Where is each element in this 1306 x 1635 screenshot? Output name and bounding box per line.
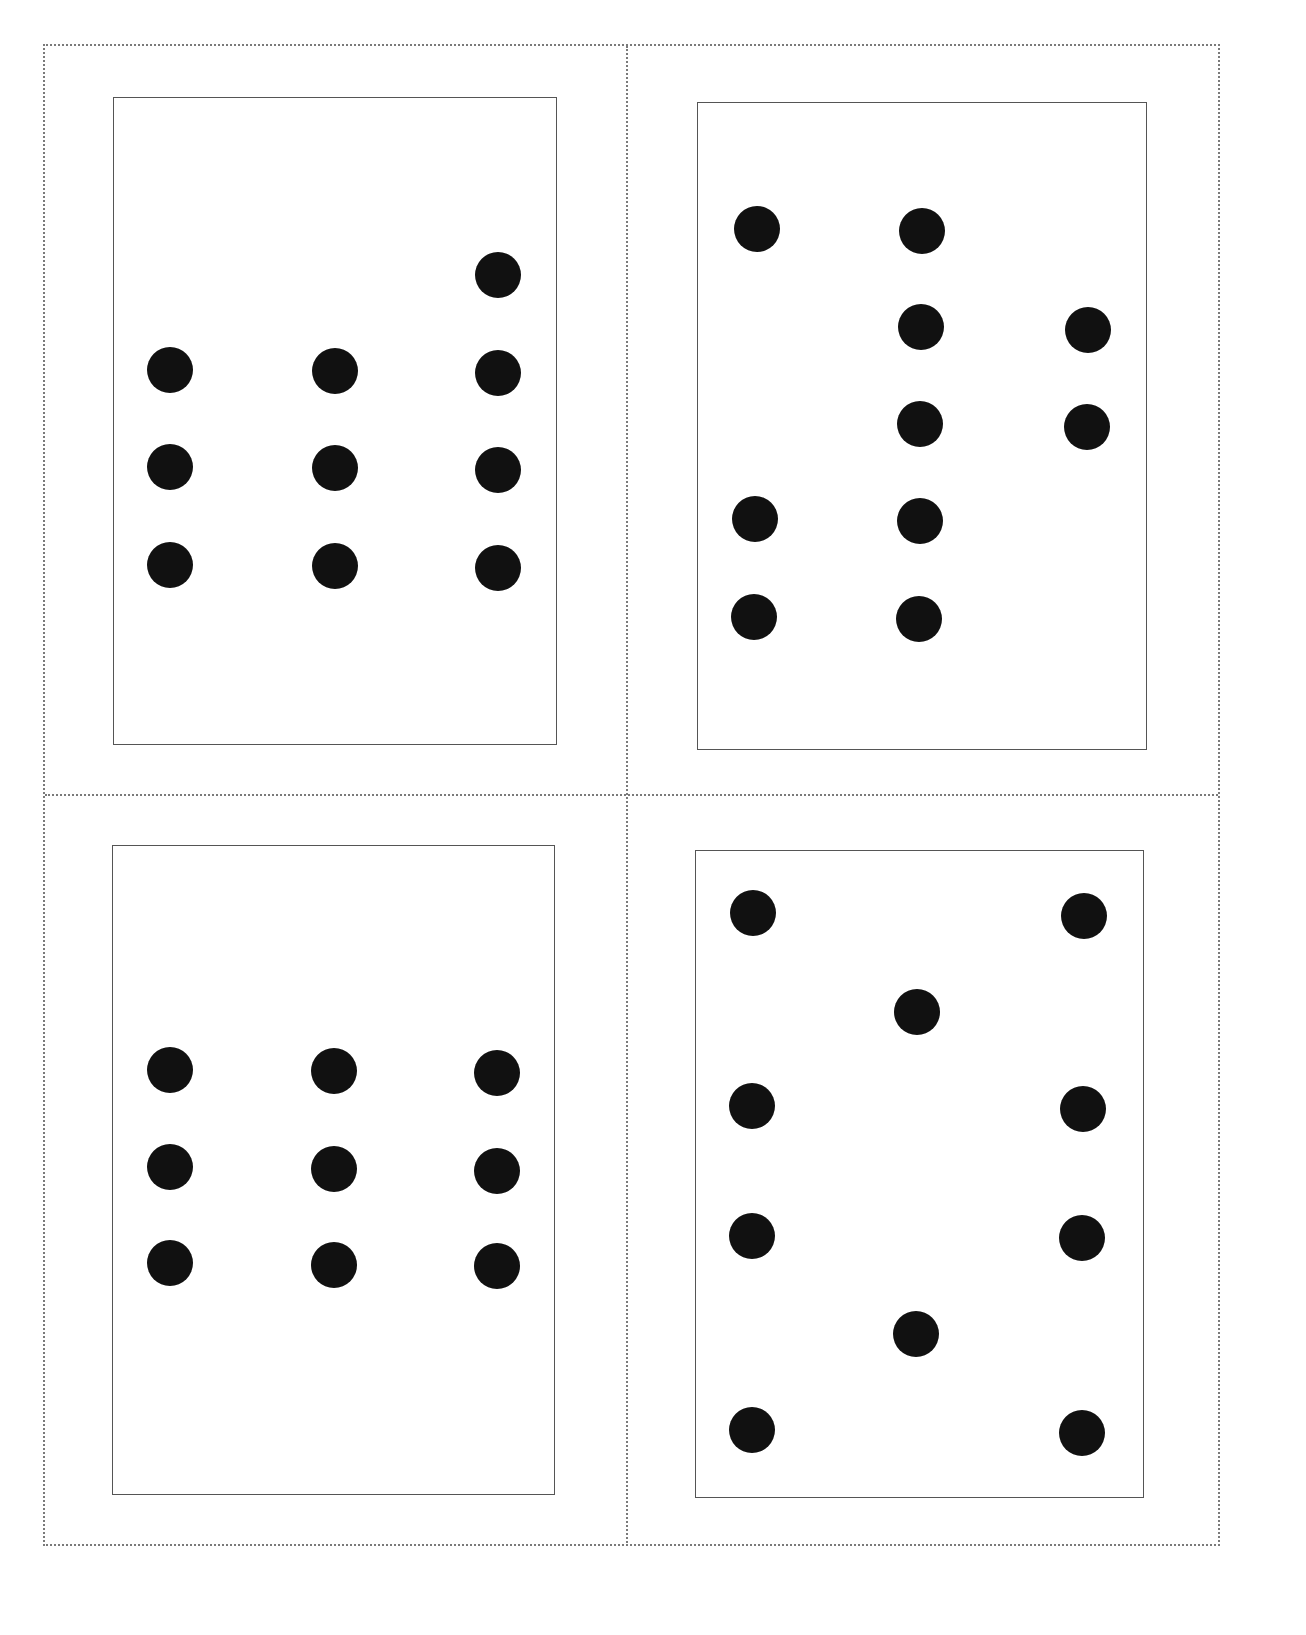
dot-pip-icon <box>475 350 521 396</box>
vertical-cut-line <box>626 46 628 1546</box>
dot-pip-icon <box>893 1311 939 1357</box>
dot-pip-icon <box>474 1050 520 1096</box>
dot-pip-icon <box>475 252 521 298</box>
dot-pip-icon <box>1060 1086 1106 1132</box>
dot-pip-icon <box>729 1407 775 1453</box>
dot-pip-icon <box>729 1213 775 1259</box>
dot-pip-icon <box>1061 893 1107 939</box>
dot-pip-icon <box>898 304 944 350</box>
dot-pip-icon <box>899 208 945 254</box>
dot-pip-icon <box>312 543 358 589</box>
dot-pip-icon <box>732 496 778 542</box>
dot-pip-icon <box>731 594 777 640</box>
dot-pip-icon <box>475 447 521 493</box>
dot-pip-icon <box>897 401 943 447</box>
dot-pip-icon <box>147 1047 193 1093</box>
dot-pip-icon <box>147 1240 193 1286</box>
dot-pip-icon <box>311 1146 357 1192</box>
card-top-left <box>113 97 557 745</box>
dot-pip-icon <box>1059 1410 1105 1456</box>
dot-pip-icon <box>1064 404 1110 450</box>
dot-pip-icon <box>147 444 193 490</box>
horizontal-cut-line <box>45 794 1218 796</box>
card-bottom-right <box>695 850 1144 1498</box>
dot-pip-icon <box>311 1048 357 1094</box>
dot-pip-icon <box>1065 307 1111 353</box>
dot-pip-icon <box>897 498 943 544</box>
dot-pip-icon <box>475 545 521 591</box>
dot-pip-icon <box>729 1083 775 1129</box>
dot-pip-icon <box>311 1242 357 1288</box>
dot-pip-icon <box>312 348 358 394</box>
dot-pip-icon <box>474 1148 520 1194</box>
dot-pip-icon <box>312 445 358 491</box>
dot-pip-icon <box>894 989 940 1035</box>
dot-pip-icon <box>730 890 776 936</box>
dot-pip-icon <box>1059 1215 1105 1261</box>
dot-pip-icon <box>734 206 780 252</box>
dot-pip-icon <box>147 1144 193 1190</box>
dot-pip-icon <box>147 347 193 393</box>
dot-pip-icon <box>147 542 193 588</box>
dot-pip-icon <box>474 1243 520 1289</box>
dot-pip-icon <box>896 596 942 642</box>
